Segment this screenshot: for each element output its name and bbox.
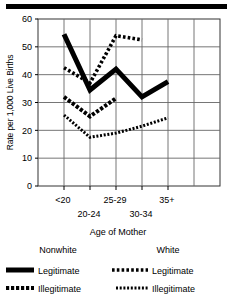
y-tick-label: 60 xyxy=(22,14,32,24)
x-tick-label-35plus: 35+ xyxy=(159,195,174,205)
legend-header-white: White xyxy=(156,245,179,255)
x-tick-label-25-29: 25-29 xyxy=(103,195,126,205)
x-axis-title: Age of Mother xyxy=(90,227,147,237)
chart-canvas: 0102030405060 Rate per 1,000 Live Births… xyxy=(0,0,233,296)
y-tick-label: 40 xyxy=(22,70,32,80)
legend-header-nonwhite: Nonwhite xyxy=(39,245,77,255)
x-tick-label-lt20: <20 xyxy=(55,195,70,205)
legend-label-white-illegitimate: Illegitimate xyxy=(152,284,195,294)
y-tick-label: 20 xyxy=(22,126,32,136)
y-tick-label: 10 xyxy=(22,153,32,163)
y-axis-tick-labels: 0102030405060 xyxy=(22,14,32,191)
x-tick-label-30-34: 30-34 xyxy=(129,209,152,219)
figure-root: 0102030405060 Rate per 1,000 Live Births… xyxy=(0,0,233,296)
y-axis-title: Rate per 1,000 Live Births xyxy=(5,55,15,151)
y-tick-label: 30 xyxy=(22,98,32,108)
x-tick-label-20-24: 20-24 xyxy=(77,209,100,219)
y-tick-label: 50 xyxy=(22,42,32,52)
legend-label-white-legitimate: Legitimate xyxy=(152,266,194,276)
legend-label-nonwhite-legitimate: Legitimate xyxy=(38,266,80,276)
x-axis-ticks xyxy=(64,186,168,190)
y-tick-label: 0 xyxy=(27,181,32,191)
chart-svg: 0102030405060 Rate per 1,000 Live Births… xyxy=(0,0,233,296)
legend-label-nonwhite-illegitimate: Illegitimate xyxy=(38,284,81,294)
